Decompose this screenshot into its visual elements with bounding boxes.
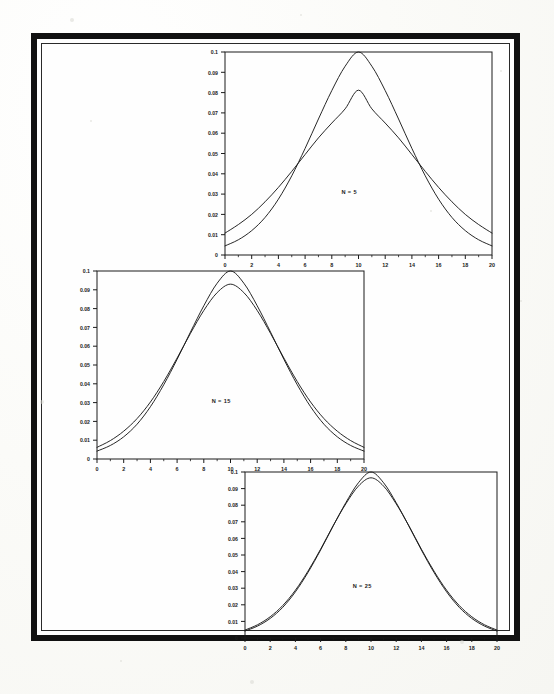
- x-axis-tick-label: 0: [96, 466, 99, 472]
- x-axis-tick-label: 18: [469, 645, 475, 651]
- x-axis-tick-label: 4: [149, 466, 152, 472]
- x-axis-tick-label: 4: [294, 645, 297, 651]
- series-line-narrow-curve: [225, 52, 492, 246]
- scan-speck: [70, 18, 74, 22]
- scan-speck: [430, 210, 432, 212]
- y-axis-tick-label: 0.03: [208, 191, 218, 197]
- x-axis-tick-label: 16: [436, 262, 442, 268]
- y-axis-tick-label: 0.01: [228, 619, 238, 625]
- y-axis-tick-label: 0.07: [228, 519, 238, 525]
- y-axis-tick-label: 0.1: [83, 268, 90, 274]
- series-line-broad-curve: [97, 284, 364, 447]
- x-axis-tick-label: 14: [409, 262, 415, 268]
- y-axis-tick-label: 0.06: [80, 343, 90, 349]
- x-axis-tick-label: 20: [489, 262, 495, 268]
- scan-speck: [40, 400, 44, 404]
- x-axis-tick-label: 12: [393, 645, 399, 651]
- y-axis-tick-label: 0.04: [80, 381, 90, 387]
- series-line-narrow-curve: [245, 472, 497, 631]
- x-axis-tick-label: 20: [494, 645, 500, 651]
- y-axis-tick-label: 0.05: [80, 362, 90, 368]
- chart-annotation-label: N = 25: [353, 583, 372, 589]
- y-axis-tick-label: 0.02: [208, 212, 218, 218]
- chart-svg-panel-top: 00.010.020.030.040.050.060.070.080.090.1…: [197, 34, 502, 279]
- y-axis-tick-label: 0.04: [208, 171, 218, 177]
- x-axis-tick-label: 14: [418, 645, 424, 651]
- y-axis-tick-label: 0: [87, 456, 90, 462]
- y-axis-tick-label: 0.08: [208, 90, 218, 96]
- plot-area-border: [97, 271, 364, 459]
- figure-frame-border: 00.010.020.030.040.050.060.070.080.090.1…: [31, 33, 520, 641]
- y-axis-tick-label: 0.1: [211, 49, 218, 55]
- y-axis-tick-label: 0.03: [228, 585, 238, 591]
- y-axis-tick-label: 0.02: [228, 602, 238, 608]
- y-axis-tick-label: 0.07: [208, 110, 218, 116]
- x-axis-tick-label: 6: [319, 645, 322, 651]
- x-axis-tick-label: 18: [462, 262, 468, 268]
- x-axis-tick-label: 10: [368, 645, 374, 651]
- scan-speck: [520, 300, 522, 302]
- y-axis-tick-label: 0.09: [80, 287, 90, 293]
- chart-panel-middle: 00.010.020.030.040.050.060.070.080.090.1…: [69, 261, 374, 483]
- y-axis-tick-label: 0.06: [208, 130, 218, 136]
- y-axis-tick-label: 0.1: [231, 469, 238, 475]
- y-axis-tick-label: 0: [215, 252, 218, 258]
- x-axis-tick-label: 16: [444, 645, 450, 651]
- x-axis-tick-label: 0: [244, 645, 247, 651]
- y-axis-tick-label: 0.01: [80, 437, 90, 443]
- x-axis-tick-label: 8: [202, 466, 205, 472]
- chart-panel-bottom: 00.010.020.030.040.050.060.070.080.090.1…: [217, 462, 507, 662]
- chart-annotation-label: N = 15: [212, 398, 231, 404]
- series-line-broad-curve: [225, 90, 492, 233]
- y-axis-tick-label: 0.09: [228, 486, 238, 492]
- x-axis-tick-label: 6: [176, 466, 179, 472]
- y-axis-tick-label: 0.08: [228, 502, 238, 508]
- plot-area-border: [225, 52, 492, 255]
- scan-speck: [250, 680, 254, 684]
- chart-svg-panel-middle: 00.010.020.030.040.050.060.070.080.090.1…: [69, 261, 374, 483]
- scan-speck: [500, 70, 502, 72]
- y-axis-tick-label: 0: [235, 635, 238, 641]
- y-axis-tick-label: 0.04: [228, 569, 238, 575]
- scan-speck: [120, 660, 122, 662]
- x-axis-tick-label: 2: [269, 645, 272, 651]
- chart-panel-top: 00.010.020.030.040.050.060.070.080.090.1…: [197, 34, 502, 279]
- y-axis-tick-label: 0.05: [228, 552, 238, 558]
- y-axis-tick-label: 0.09: [208, 70, 218, 76]
- scan-speck: [90, 120, 92, 122]
- x-axis-tick-label: 12: [382, 262, 388, 268]
- y-axis-tick-label: 0.06: [228, 536, 238, 542]
- chart-annotation-label: N = 5: [341, 189, 357, 195]
- series-line-narrow-curve: [97, 271, 364, 451]
- x-axis-tick-label: 2: [122, 466, 125, 472]
- scan-speck: [300, 14, 302, 16]
- y-axis-tick-label: 0.08: [80, 306, 90, 312]
- y-axis-tick-label: 0.03: [80, 400, 90, 406]
- x-axis-tick-label: 8: [344, 645, 347, 651]
- y-axis-tick-label: 0.01: [208, 232, 218, 238]
- chart-svg-panel-bottom: 00.010.020.030.040.050.060.070.080.090.1…: [217, 462, 507, 662]
- y-axis-tick-label: 0.07: [80, 325, 90, 331]
- scan-speck: [460, 640, 464, 644]
- y-axis-tick-label: 0.05: [208, 151, 218, 157]
- plot-area-border: [245, 472, 497, 638]
- y-axis-tick-label: 0.02: [80, 419, 90, 425]
